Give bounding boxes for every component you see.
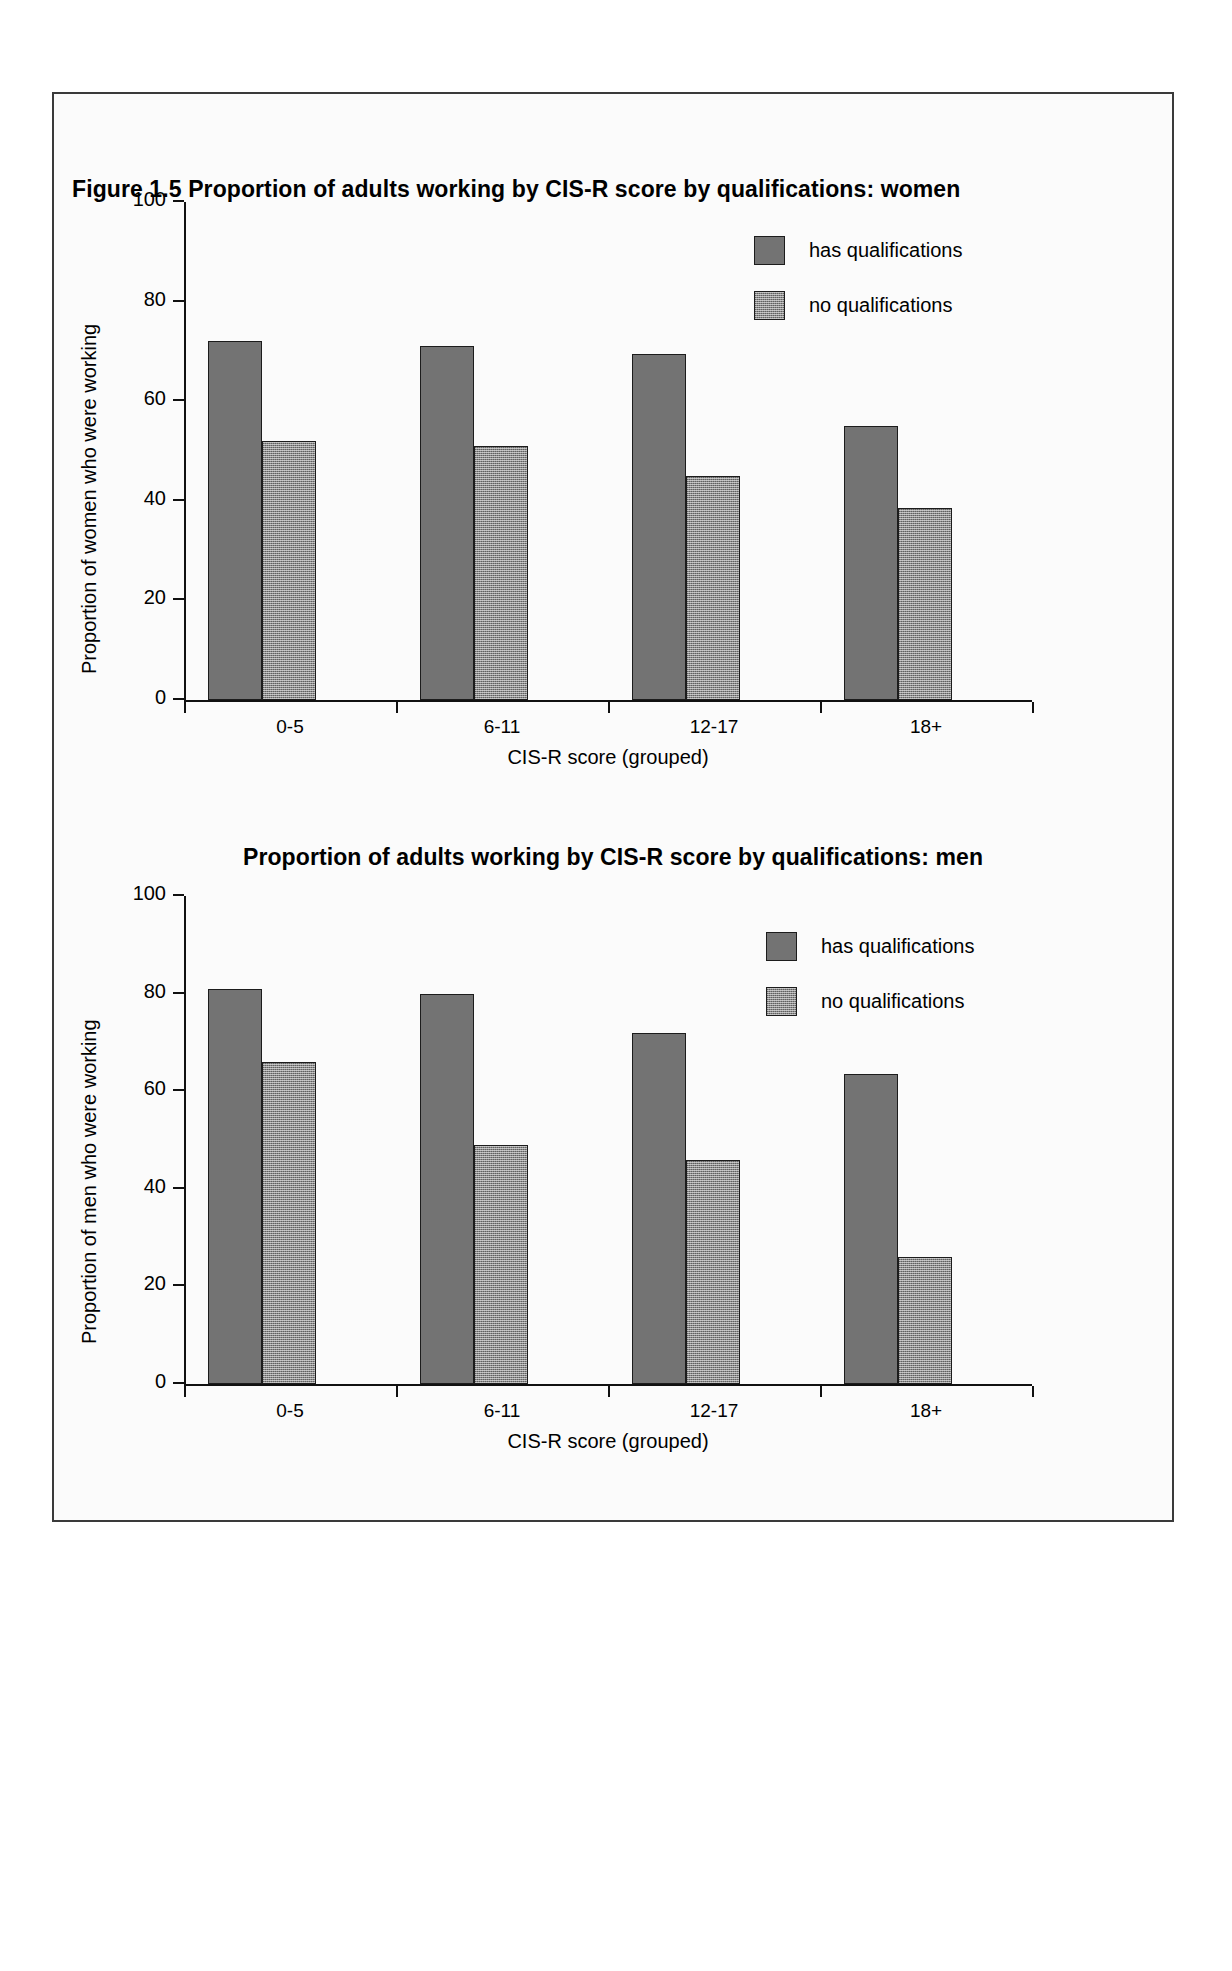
legend-men: has qualifications no qualifications bbox=[766, 932, 974, 1042]
y-tick-label: 80 bbox=[144, 979, 166, 1002]
y-tick: 60 bbox=[173, 1089, 184, 1091]
legend-swatch-has-qualifications bbox=[766, 932, 797, 961]
x-tick bbox=[1032, 1386, 1034, 1397]
bar-has-qualifications bbox=[844, 426, 898, 700]
legend-label-no-qualifications: no qualifications bbox=[821, 990, 964, 1013]
legend-label-has-qualifications: has qualifications bbox=[809, 239, 962, 262]
y-tick: 100 bbox=[173, 894, 184, 896]
x-tick bbox=[1032, 702, 1034, 713]
legend-swatch-no-qualifications bbox=[766, 987, 797, 1016]
legend-item-no-qualifications[interactable]: no qualifications bbox=[766, 987, 974, 1016]
legend-swatch-no-qualifications bbox=[754, 291, 785, 320]
y-tick-label: 0 bbox=[155, 686, 166, 709]
y-tick: 0 bbox=[173, 1382, 184, 1384]
x-tick bbox=[184, 1386, 186, 1397]
y-tick: 20 bbox=[173, 598, 184, 600]
chart-women-title-wrap: Figure 1.5 Proportion of adults working … bbox=[54, 154, 1172, 188]
x-category-label: 18+ bbox=[910, 716, 942, 738]
y-tick: 60 bbox=[173, 399, 184, 401]
y-axis-title-women: Proportion of women who were working bbox=[78, 324, 101, 674]
x-category-label: 6-11 bbox=[484, 1400, 521, 1422]
y-tick: 100 bbox=[173, 200, 184, 202]
legend-item-has-qualifications[interactable]: has qualifications bbox=[766, 932, 974, 961]
bar-has-qualifications bbox=[420, 346, 474, 700]
y-axis-line-men bbox=[184, 896, 186, 1386]
x-category-label: 6-11 bbox=[484, 716, 521, 738]
x-category-label: 12-17 bbox=[690, 716, 739, 738]
legend-item-no-qualifications[interactable]: no qualifications bbox=[754, 291, 962, 320]
y-tick-label: 20 bbox=[144, 1272, 166, 1295]
x-category-label: 0-5 bbox=[276, 1400, 303, 1422]
x-axis-title-women: CIS-R score (grouped) bbox=[184, 746, 1032, 769]
chart-men-title: Proportion of adults working by CIS-R sc… bbox=[54, 844, 1172, 871]
x-category-label: 0-5 bbox=[276, 716, 303, 738]
page-title: Figure 1.5 Proportion of adults working … bbox=[72, 176, 960, 203]
y-tick-label: 60 bbox=[144, 1077, 166, 1100]
bar-has-qualifications bbox=[208, 989, 262, 1384]
legend-women: has qualifications no qualifications bbox=[754, 236, 962, 346]
x-axis-title-men: CIS-R score (grouped) bbox=[184, 1430, 1032, 1453]
x-tick bbox=[608, 1386, 610, 1397]
bar-has-qualifications bbox=[208, 341, 262, 700]
bar-has-qualifications bbox=[844, 1074, 898, 1384]
bar-no-qualifications bbox=[686, 1160, 740, 1384]
y-tick-label: 60 bbox=[144, 387, 166, 410]
y-tick: 20 bbox=[173, 1284, 184, 1286]
y-tick-label: 100 bbox=[133, 882, 166, 905]
x-tick bbox=[396, 702, 398, 713]
chart-women: Figure 1.5 Proportion of adults working … bbox=[54, 154, 1172, 764]
bar-has-qualifications bbox=[632, 354, 686, 700]
y-tick-label: 0 bbox=[155, 1370, 166, 1393]
bar-no-qualifications bbox=[474, 446, 528, 700]
y-axis-line-women bbox=[184, 202, 186, 702]
bar-has-qualifications bbox=[420, 994, 474, 1384]
legend-label-no-qualifications: no qualifications bbox=[809, 294, 952, 317]
bar-no-qualifications bbox=[474, 1145, 528, 1384]
x-tick bbox=[396, 1386, 398, 1397]
bar-no-qualifications bbox=[686, 476, 740, 700]
figure-frame: Figure 1.5 Proportion of adults working … bbox=[52, 92, 1174, 1522]
bar-no-qualifications bbox=[262, 441, 316, 700]
y-axis-title-men: Proportion of men who were working bbox=[78, 1019, 101, 1344]
y-tick: 80 bbox=[173, 300, 184, 302]
x-category-label: 12-17 bbox=[690, 1400, 739, 1422]
bar-no-qualifications bbox=[898, 1257, 952, 1384]
chart-men: Proportion of adults working by CIS-R sc… bbox=[54, 844, 1172, 1484]
y-tick-label: 20 bbox=[144, 586, 166, 609]
x-category-label: 18+ bbox=[910, 1400, 942, 1422]
y-tick: 0 bbox=[173, 698, 184, 700]
y-tick-label: 40 bbox=[144, 487, 166, 510]
x-tick bbox=[608, 702, 610, 713]
legend-swatch-has-qualifications bbox=[754, 236, 785, 265]
y-tick-label: 80 bbox=[144, 287, 166, 310]
y-tick: 40 bbox=[173, 499, 184, 501]
y-tick: 80 bbox=[173, 992, 184, 994]
x-tick bbox=[820, 1386, 822, 1397]
legend-label-has-qualifications: has qualifications bbox=[821, 935, 974, 958]
y-tick-label: 100 bbox=[133, 188, 166, 211]
bar-has-qualifications bbox=[632, 1033, 686, 1384]
x-tick bbox=[820, 702, 822, 713]
y-tick: 40 bbox=[173, 1187, 184, 1189]
bar-no-qualifications bbox=[898, 508, 952, 700]
y-tick-label: 40 bbox=[144, 1175, 166, 1198]
bar-no-qualifications bbox=[262, 1062, 316, 1384]
chart-men-title-wrap: Proportion of adults working by CIS-R sc… bbox=[54, 844, 1172, 878]
legend-item-has-qualifications[interactable]: has qualifications bbox=[754, 236, 962, 265]
x-tick bbox=[184, 702, 186, 713]
